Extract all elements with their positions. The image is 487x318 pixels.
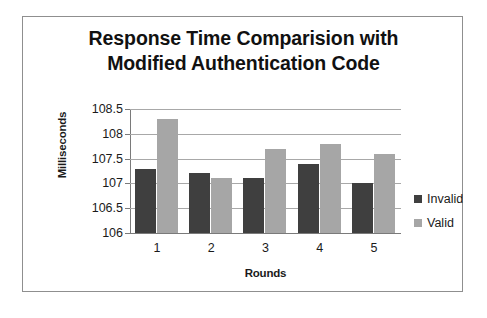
bar-invalid-round-2 <box>189 173 210 233</box>
bar-group <box>238 109 292 233</box>
y-axis-tick-label: 107 <box>77 177 123 189</box>
y-axis-tick-label: 108.5 <box>77 103 123 115</box>
legend-entry-invalid: Invalid <box>414 189 463 213</box>
x-axis-tick-label: 2 <box>184 241 238 255</box>
bar-invalid-round-1 <box>135 169 156 233</box>
legend-swatch-icon <box>414 219 422 227</box>
y-axis-tick <box>125 183 130 184</box>
y-axis-tick-labels: 108.5108107.5107106.5106 <box>75 17 123 318</box>
y-axis-tick <box>125 134 130 135</box>
bar-invalid-round-4 <box>298 164 319 233</box>
bar-group <box>347 109 401 233</box>
y-axis-tick-label: 107.5 <box>77 153 123 165</box>
y-axis-tick-label: 106 <box>77 227 123 239</box>
x-axis-tick-label: 3 <box>239 241 293 255</box>
legend-label: Invalid <box>427 192 463 206</box>
y-axis-title: Milliseconds <box>56 100 68 190</box>
bar-group <box>293 109 347 233</box>
y-axis-tick <box>125 109 130 110</box>
x-axis-tick-label: 5 <box>347 241 401 255</box>
bar-invalid-round-5 <box>352 183 373 233</box>
legend-swatch-icon <box>414 195 422 203</box>
legend-entry-valid: Valid <box>414 213 463 237</box>
bar-invalid-round-3 <box>243 178 264 233</box>
y-axis-tick <box>125 233 130 234</box>
y-axis-tick <box>125 159 130 160</box>
bar-valid-round-5 <box>374 154 395 233</box>
bar-group <box>130 109 184 233</box>
plot-area <box>130 109 401 233</box>
legend-label: Valid <box>427 216 454 230</box>
y-axis-tick-label: 108 <box>77 128 123 140</box>
bar-valid-round-3 <box>265 149 286 233</box>
gridline <box>130 233 401 234</box>
chart-legend: InvalidValid <box>414 189 463 237</box>
x-axis-tick-label: 1 <box>130 241 184 255</box>
y-axis-tick <box>125 208 130 209</box>
x-axis-tick-label: 4 <box>293 241 347 255</box>
y-axis-tick-label: 106.5 <box>77 202 123 214</box>
bar-valid-round-4 <box>320 144 341 233</box>
bar-valid-round-1 <box>157 119 178 233</box>
chart-frame: Response Time Comparision with Modified … <box>22 16 463 292</box>
bar-valid-round-2 <box>211 178 232 233</box>
bar-group <box>184 109 238 233</box>
chart-page: Response Time Comparision with Modified … <box>0 0 487 318</box>
x-axis-title: Rounds <box>130 267 401 279</box>
